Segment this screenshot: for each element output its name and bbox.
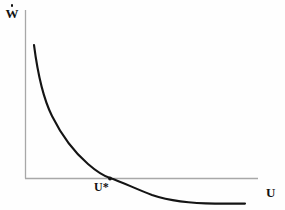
phillips-curve-path (34, 45, 245, 204)
y-axis-label-text: W (4, 7, 20, 20)
x-axis-label: U (266, 186, 275, 199)
equilibrium-label: U* (94, 181, 109, 193)
phillips-curve-figure: W U U* (0, 0, 285, 210)
y-axis-label: W (4, 4, 20, 22)
chart-canvas (0, 0, 285, 210)
